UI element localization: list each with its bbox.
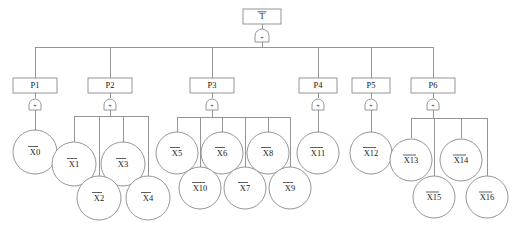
x6-label: X6 <box>217 148 227 158</box>
x8-label: X8 <box>263 148 273 158</box>
event-x6[interactable]: X6 <box>201 132 243 174</box>
event-x15[interactable]: X15 <box>413 176 455 218</box>
x2-label: X2 <box>94 193 104 203</box>
event-x9[interactable]: X9 <box>269 167 311 209</box>
p5-or-gate[interactable]: + <box>365 99 377 110</box>
event-x0[interactable]: X0 <box>13 130 57 174</box>
x15-label: X15 <box>427 192 442 202</box>
x14-label: X14 <box>454 155 469 165</box>
top-event-node[interactable]: T <box>243 9 281 24</box>
p3-or-gate[interactable]: + <box>206 99 218 110</box>
event-x4[interactable]: X4 <box>126 176 170 220</box>
event-x14[interactable]: X14 <box>440 139 482 181</box>
x4-label: X4 <box>143 193 154 203</box>
fault-tree-diagram: T + P1 + X0 P2 + X1 <box>0 0 512 230</box>
node-p6[interactable]: P6 <box>411 78 455 93</box>
x0-label: X0 <box>30 147 40 157</box>
top-event-label: T <box>259 11 265 21</box>
x9-label: X9 <box>285 183 295 193</box>
p3-label: P3 <box>208 80 217 90</box>
event-x16[interactable]: X16 <box>466 176 508 218</box>
p6-or-gate[interactable]: + <box>427 99 439 110</box>
p1-label: P1 <box>31 80 40 90</box>
x12-label: X12 <box>364 148 379 158</box>
p2-or-gate[interactable]: + <box>104 99 116 110</box>
p5-label: P5 <box>367 80 376 90</box>
event-x13[interactable]: X13 <box>390 139 432 181</box>
p1-or-gate[interactable]: + <box>29 99 41 110</box>
p4-label: P4 <box>314 80 324 90</box>
x10-label: X10 <box>193 183 208 193</box>
event-x11[interactable]: X11 <box>297 132 339 174</box>
x3-label: X3 <box>118 159 128 169</box>
node-p4[interactable]: P4 <box>299 78 337 93</box>
x5-label: X5 <box>172 148 182 158</box>
node-p2[interactable]: P2 <box>88 78 132 93</box>
event-x10[interactable]: X10 <box>179 167 221 209</box>
x16-label: X16 <box>480 192 495 202</box>
node-p5[interactable]: P5 <box>352 78 390 93</box>
x7-label: X7 <box>240 183 250 193</box>
event-x2[interactable]: X2 <box>77 176 121 220</box>
top-event-or-gate[interactable]: + <box>255 29 269 42</box>
x11-label: X11 <box>311 148 325 158</box>
p6-label: P6 <box>429 80 438 90</box>
p4-or-gate[interactable]: + <box>312 99 324 110</box>
node-p3[interactable]: P3 <box>190 78 234 93</box>
event-x12[interactable]: X12 <box>350 132 392 174</box>
x1-label: X1 <box>69 159 79 169</box>
x13-label: X13 <box>404 155 419 165</box>
event-x5[interactable]: X5 <box>156 132 198 174</box>
p2-label: P2 <box>106 80 115 90</box>
event-x7[interactable]: X7 <box>224 167 266 209</box>
event-x8[interactable]: X8 <box>247 132 289 174</box>
node-p1[interactable]: P1 <box>13 78 57 93</box>
